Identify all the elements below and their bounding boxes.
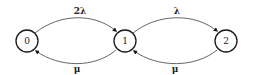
edge-1-to-2: [133, 18, 217, 33]
state-label-1: 1: [122, 36, 128, 46]
state-node-2: 2: [215, 30, 237, 52]
state-label-0: 0: [24, 36, 30, 46]
state-node-0: 0: [16, 30, 38, 52]
state-diagram: 2λ μ λ μ 0 1 2: [0, 0, 253, 75]
edge-label-2-to-1: μ: [172, 64, 179, 74]
edge-2-to-1: [134, 50, 217, 64]
edge-1-to-0: [36, 50, 116, 64]
state-label-2: 2: [223, 36, 229, 46]
edge-label-0-to-1: 2λ: [74, 6, 87, 16]
edge-0-to-1: [35, 18, 116, 33]
state-node-1: 1: [114, 30, 136, 52]
edge-label-1-to-0: μ: [74, 64, 81, 74]
edge-label-1-to-2: λ: [174, 6, 180, 16]
